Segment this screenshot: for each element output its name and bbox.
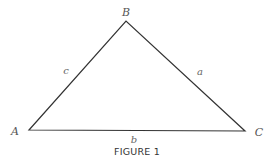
side-label-c: c [63, 65, 69, 76]
vertex-label-c: C [255, 126, 264, 139]
triangle-figure: B A C c a b FIGURE 1 [0, 0, 274, 165]
side-label-a: a [197, 66, 203, 77]
figure-caption: FIGURE 1 [0, 146, 274, 157]
vertex-label-b: B [121, 6, 130, 19]
triangle-diagram: B A C c a b [0, 0, 274, 165]
triangle-abc [29, 21, 245, 131]
side-label-b: b [131, 134, 137, 145]
vertex-label-a: A [10, 125, 19, 138]
